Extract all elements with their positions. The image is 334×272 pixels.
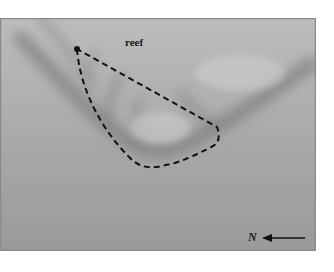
aerial-photo: [0, 18, 316, 251]
north-label: N: [248, 230, 257, 245]
aerial-photo-canvas: [0, 18, 316, 251]
reef-marker-dot: [74, 46, 80, 52]
reef-label: reef: [125, 36, 143, 48]
